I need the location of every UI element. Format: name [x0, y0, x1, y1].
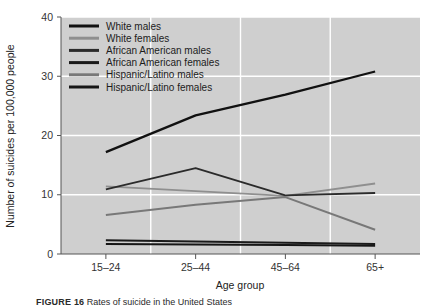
y-axis-title: Number of suicides per 100,000 people	[4, 44, 16, 227]
x-tick-label: 45–64	[271, 261, 300, 273]
y-tick-label: 0	[47, 248, 53, 260]
figure-caption-text: Rates of suicide in the United States	[84, 297, 232, 307]
legend-item-label: Hispanic/Latino females	[106, 82, 212, 93]
y-tick-label: 40	[41, 11, 53, 23]
legend-item-label: African American females	[106, 57, 219, 68]
legend-item-label: White males	[106, 21, 161, 32]
figure-caption-label: FIGURE 16	[36, 297, 84, 307]
x-tick-label: 65+	[366, 261, 384, 273]
x-tick-label: 25–44	[181, 261, 210, 273]
legend-item-label: African American males	[106, 45, 211, 56]
figure-container: 010203040 15–2425–4445–6465+ Number of s…	[0, 0, 432, 307]
suicide-rates-line-chart: 010203040 15–2425–4445–6465+ Number of s…	[0, 0, 432, 307]
legend-item-label: White females	[106, 33, 169, 44]
y-tick-label: 10	[41, 188, 53, 200]
x-tick-label: 15–24	[91, 261, 120, 273]
legend-item-label: Hispanic/Latino males	[106, 69, 204, 80]
figure-caption: FIGURE 16 Rates of suicide in the United…	[36, 297, 232, 307]
x-axis-title: Age group	[216, 279, 265, 291]
y-tick-label: 30	[41, 70, 53, 82]
y-tick-label: 20	[41, 129, 53, 141]
